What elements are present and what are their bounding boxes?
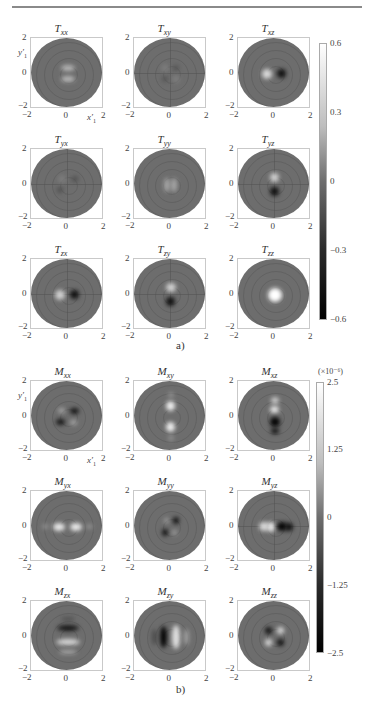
axis-tick-label: 2 — [204, 453, 209, 463]
axis-tick-label: −2 — [22, 109, 32, 119]
axis-tick-label: −2 — [125, 330, 135, 340]
axis-tick-label: 2 — [229, 32, 234, 42]
axis-tick-label: 2 — [308, 563, 313, 573]
axis-tick-label: 0 — [167, 673, 172, 683]
panel-title: Tyy — [158, 133, 171, 148]
axis-tick-label: 2 — [229, 485, 234, 495]
intensity-spot — [166, 401, 175, 411]
panel-title-symbol: M — [158, 585, 167, 597]
axis-tick-label: 2 — [125, 485, 130, 495]
intensity-spot — [271, 428, 279, 434]
axis-tick-label: 0 — [64, 563, 69, 573]
axis-tick-label: 0 — [125, 178, 130, 188]
axis-tick-label: 2 — [101, 331, 106, 341]
colorbar-b-tick: −1.25 — [327, 580, 348, 590]
intensity-spot — [59, 650, 77, 654]
heatmap-plot — [133, 490, 206, 561]
panel-title-symbol: M — [262, 585, 271, 597]
panel-title: Myx — [55, 475, 71, 490]
panel-title: Myy — [158, 475, 174, 490]
panel-title: Mzx — [55, 585, 71, 600]
colorbar-a — [319, 43, 327, 320]
axis-tick-label: −2 — [22, 330, 32, 340]
axis-tick-label: −2 — [22, 562, 32, 572]
axis-tick-label: 0 — [22, 630, 27, 640]
panel-title: Tzx — [55, 243, 68, 258]
colorbar-a-tick: −0.3 — [330, 245, 346, 255]
axis-tick-label: 2 — [308, 110, 313, 120]
axis-tick-label: 2 — [308, 331, 313, 341]
axis-tick-label: 2 — [204, 110, 209, 120]
axis-tick-label: −2 — [229, 452, 239, 462]
panel-title-subscript: zz — [268, 249, 274, 258]
x-axis-subscript: 1 — [93, 461, 96, 467]
axis-tick-label: −2 — [125, 672, 135, 682]
panel-title-subscript: xy — [167, 371, 174, 380]
axis-tick-label: 2 — [22, 485, 27, 495]
intensity-spot — [171, 178, 177, 192]
center-line-v — [170, 259, 171, 328]
axis-tick-label: 0 — [64, 331, 69, 341]
heatmap-plot — [237, 380, 310, 451]
colorbar-b-tick: −2.5 — [327, 648, 343, 658]
axis-tick-label: 0 — [271, 453, 276, 463]
axis-tick-label: 2 — [22, 143, 27, 153]
panel-title: Mzz — [262, 585, 277, 600]
axis-tick-label: 2 — [229, 143, 234, 153]
heatmap-plot — [133, 600, 206, 671]
heatmap-disk — [31, 149, 102, 218]
axis-tick-label: 2 — [204, 563, 209, 573]
panel-title: Myz — [262, 475, 278, 490]
axis-tick-label: 2 — [204, 221, 209, 231]
ring-contour — [243, 153, 309, 219]
panel-title: Mxx — [55, 365, 71, 380]
ring-contour — [36, 153, 102, 219]
axis-tick-label: 0 — [125, 630, 130, 640]
axis-tick-label: 0 — [22, 520, 27, 530]
heatmap-disk — [238, 601, 309, 670]
axis-tick-label: −2 — [229, 109, 239, 119]
axis-tick-label: −2 — [125, 452, 135, 462]
panel-title-symbol: M — [55, 475, 64, 487]
heatmap-plot — [237, 490, 310, 561]
axis-tick-label: 0 — [167, 221, 172, 231]
panel-title-subscript: zx — [61, 249, 68, 258]
intensity-spot — [164, 178, 170, 192]
axis-tick-label: 2 — [229, 595, 234, 605]
intensity-spot — [61, 617, 75, 621]
ring-contour — [243, 495, 309, 561]
ring-contour — [36, 605, 102, 671]
panel-title-subscript: zy — [167, 591, 174, 600]
panel-title-subscript: yx — [61, 139, 68, 148]
x-axis-subscript: 1 — [93, 118, 96, 124]
intensity-spot — [267, 522, 275, 532]
y-axis-label: y′1 — [18, 390, 27, 402]
y-axis-subscript: 1 — [24, 396, 27, 402]
panel-title: Tzz — [262, 243, 274, 258]
y-axis-label: y′1 — [18, 47, 27, 59]
axis-tick-label: 2 — [125, 32, 130, 42]
axis-tick-label: 2 — [22, 253, 27, 263]
caption-a: a) — [176, 339, 185, 351]
axis-tick-label: 0 — [271, 110, 276, 120]
intensity-spot — [57, 625, 79, 631]
axis-tick-label: 0 — [125, 520, 130, 530]
axis-tick-label: 2 — [229, 375, 234, 385]
intensity-spot — [152, 629, 157, 645]
intensity-spot — [56, 419, 65, 425]
heatmap-plot — [30, 148, 103, 219]
colorbar-b-tick: 0 — [327, 512, 332, 522]
intensity-spot — [277, 639, 284, 646]
ring-contour — [139, 42, 205, 108]
intensity-spot — [270, 417, 280, 427]
intensity-spot — [166, 283, 176, 292]
axis-tick-label: 0 — [167, 331, 172, 341]
panel-title: Txx — [55, 22, 68, 37]
panel-title-subscript: zz — [271, 591, 277, 600]
intensity-spot — [270, 173, 279, 182]
axis-tick-label: −2 — [229, 220, 239, 230]
intensity-spot — [262, 69, 272, 79]
axis-tick-label: 0 — [22, 67, 27, 77]
heatmap-plot — [133, 380, 206, 451]
colorbar-b-scale: (×10⁻⁶) — [318, 367, 343, 376]
